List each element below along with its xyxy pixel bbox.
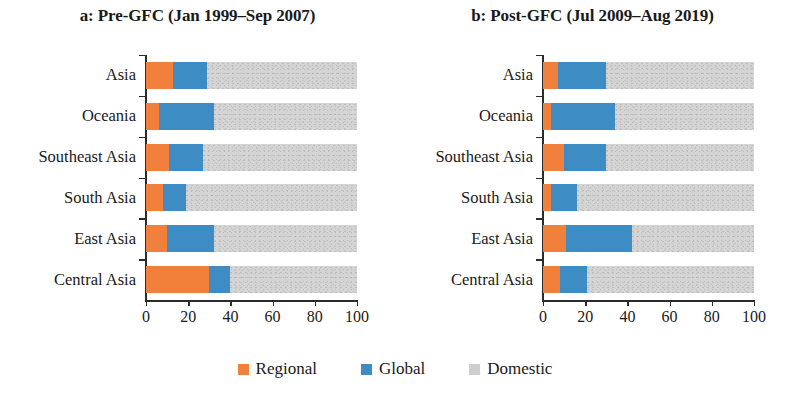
y-tick: [536, 137, 543, 138]
x-tick-label: 80: [307, 308, 323, 326]
x-tick-label: 40: [619, 308, 635, 326]
y-axis-category-label: Southeast Asia: [435, 147, 533, 167]
bar-segment-global: [551, 103, 614, 130]
bar-row: Central Asia: [146, 266, 357, 293]
x-tick-label: 100: [345, 308, 369, 326]
x-tick: [543, 300, 544, 306]
y-axis-category-label: Oceania: [82, 106, 136, 126]
bar-segment-domestic: [186, 184, 357, 211]
x-tick: [188, 300, 189, 306]
y-tick: [139, 259, 146, 260]
bar-segment-domestic: [214, 103, 357, 130]
bar-row: Central Asia: [543, 266, 754, 293]
y-axis-category-label: South Asia: [461, 188, 533, 208]
legend-item-global: Global: [361, 359, 425, 379]
plot-area-post-gfc: 020406080100AsiaOceaniaSoutheast AsiaSou…: [543, 55, 754, 300]
legend-label-regional: Regional: [256, 359, 317, 379]
x-tick: [712, 300, 713, 306]
x-tick-label: 80: [704, 308, 720, 326]
bar-segment-global: [551, 184, 576, 211]
bar-segment-domestic: [203, 144, 357, 171]
legend-swatch-regional-icon: [238, 364, 249, 375]
x-tick: [146, 300, 147, 306]
legend-item-regional: Regional: [238, 359, 317, 379]
bar-segment-global: [169, 144, 203, 171]
x-tick: [315, 300, 316, 306]
bar-segment-regional: [146, 184, 163, 211]
legend-item-domestic: Domestic: [469, 359, 552, 379]
y-axis-category-label: Oceania: [479, 106, 533, 126]
legend-label-domestic: Domestic: [487, 359, 552, 379]
x-tick-label: 20: [180, 308, 196, 326]
y-axis-category-label: Asia: [503, 65, 533, 85]
bar-row: South Asia: [146, 184, 357, 211]
x-tick: [627, 300, 628, 306]
x-tick: [754, 300, 755, 306]
chart-panels: a: Pre-GFC (Jan 1999–Sep 2007) 020406080…: [0, 0, 790, 345]
bar-segment-domestic: [214, 225, 357, 252]
y-axis-category-label: Southeast Asia: [38, 147, 136, 167]
bar-row: Asia: [543, 62, 754, 89]
y-tick: [139, 55, 146, 56]
bar-row: Oceania: [543, 103, 754, 130]
bar-segment-global: [163, 184, 186, 211]
bar-segment-global: [564, 144, 606, 171]
bar-segment-regional: [543, 266, 560, 293]
x-tick: [585, 300, 586, 306]
y-tick: [536, 218, 543, 219]
bar-segment-regional: [146, 225, 167, 252]
panel-pre-gfc: a: Pre-GFC (Jan 1999–Sep 2007) 020406080…: [0, 0, 395, 345]
bar-segment-domestic: [207, 62, 357, 89]
x-tick-label: 60: [265, 308, 281, 326]
bar-segment-global: [173, 62, 207, 89]
bar-row: Asia: [146, 62, 357, 89]
y-tick: [139, 96, 146, 97]
panel-post-gfc: b: Post-GFC (Jul 2009–Aug 2019) 02040608…: [395, 0, 790, 345]
y-axis-category-label: East Asia: [74, 229, 136, 249]
bar-row: Southeast Asia: [543, 144, 754, 171]
bar-segment-global: [560, 266, 587, 293]
panel-title-b: b: Post-GFC (Jul 2009–Aug 2019): [395, 6, 790, 26]
y-tick: [536, 259, 543, 260]
bar-segment-regional: [543, 184, 551, 211]
x-tick-label: 100: [742, 308, 766, 326]
y-tick: [536, 55, 543, 56]
y-axis-category-label: Central Asia: [451, 270, 533, 290]
legend-swatch-domestic-icon: [469, 364, 480, 375]
bar-segment-domestic: [230, 266, 357, 293]
bar-segment-regional: [543, 103, 551, 130]
x-tick-label: 40: [222, 308, 238, 326]
bar-segment-domestic: [615, 103, 754, 130]
bar-segment-regional: [543, 144, 564, 171]
bar-segment-regional: [543, 225, 566, 252]
bar-segment-domestic: [632, 225, 754, 252]
y-tick: [139, 137, 146, 138]
y-axis-category-label: East Asia: [471, 229, 533, 249]
x-tick-label: 20: [577, 308, 593, 326]
bar-segment-global: [566, 225, 631, 252]
bar-segment-global: [159, 103, 214, 130]
bar-segment-regional: [146, 103, 159, 130]
chart-legend: Regional Global Domestic: [0, 345, 790, 405]
panel-title-a: a: Pre-GFC (Jan 1999–Sep 2007): [0, 6, 395, 26]
bar-row: East Asia: [146, 225, 357, 252]
stacked-bar-figure: a: Pre-GFC (Jan 1999–Sep 2007) 020406080…: [0, 0, 790, 405]
x-tick: [230, 300, 231, 306]
legend-swatch-global-icon: [361, 364, 372, 375]
bar-segment-domestic: [606, 144, 754, 171]
bar-segment-domestic: [577, 184, 754, 211]
x-axis-line: [542, 300, 755, 302]
x-axis-line: [145, 300, 358, 302]
plot-area-pre-gfc: 020406080100AsiaOceaniaSoutheast AsiaSou…: [146, 55, 357, 300]
x-tick: [357, 300, 358, 306]
bar-segment-global: [558, 62, 607, 89]
bar-row: Southeast Asia: [146, 144, 357, 171]
x-tick-label: 0: [142, 308, 150, 326]
y-tick: [139, 178, 146, 179]
bar-row: East Asia: [543, 225, 754, 252]
x-tick-label: 0: [539, 308, 547, 326]
bar-segment-global: [167, 225, 213, 252]
x-tick: [273, 300, 274, 306]
y-axis-category-label: Asia: [106, 65, 136, 85]
bar-row: South Asia: [543, 184, 754, 211]
